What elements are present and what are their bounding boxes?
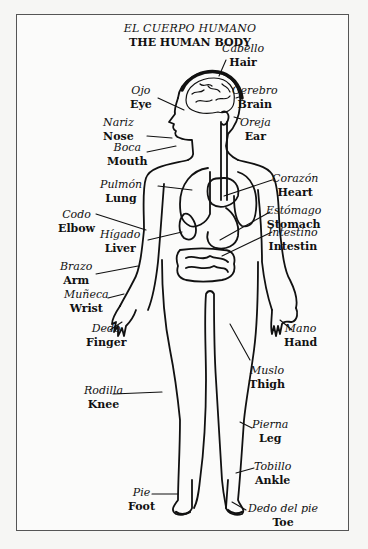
- label-finger: Dedo Finger: [86, 322, 126, 350]
- trachea: [221, 122, 227, 200]
- intestine-icon: [177, 249, 235, 282]
- label-thigh: Muslo Thigh: [249, 364, 285, 392]
- label-mouth: Boca Mouth: [107, 141, 148, 169]
- label-ear: Oreja Ear: [240, 116, 271, 144]
- stomach-icon: [207, 208, 238, 249]
- inner-legs: [194, 291, 226, 508]
- label-heart: Corazón Heart: [272, 172, 318, 200]
- label-foot: Pie Foot: [128, 486, 155, 514]
- label-hand: Mano Hand: [284, 322, 317, 350]
- human-body-illustration: [0, 0, 368, 549]
- label-toe: Dedo del pie Toe: [248, 502, 318, 530]
- lung-left-icon: [180, 168, 210, 227]
- toes: [176, 510, 242, 514]
- label-arm: Brazo Arm: [60, 260, 92, 288]
- label-wrist: Muñeca Wrist: [64, 288, 109, 316]
- label-lung: Pulmón Lung: [100, 178, 142, 206]
- label-liver: Hígado Liver: [100, 228, 140, 256]
- label-knee: Rodilla Knee: [84, 384, 123, 412]
- label-hair: Cabello Hair: [222, 42, 264, 70]
- label-ankle: Tobillo Ankle: [254, 460, 291, 488]
- brain-icon: [186, 78, 234, 113]
- left-leg-outer: [162, 260, 192, 515]
- label-elbow: Codo Elbow: [58, 208, 95, 236]
- face-profile: [169, 98, 193, 160]
- label-leg: Pierna Leg: [252, 418, 288, 446]
- label-intestine: Intestino Intestin: [268, 226, 318, 254]
- label-brain: Cerebro Brain: [232, 84, 278, 112]
- label-eye: Ojo Eye: [130, 84, 152, 112]
- label-nose: Nariz Nose: [103, 116, 134, 144]
